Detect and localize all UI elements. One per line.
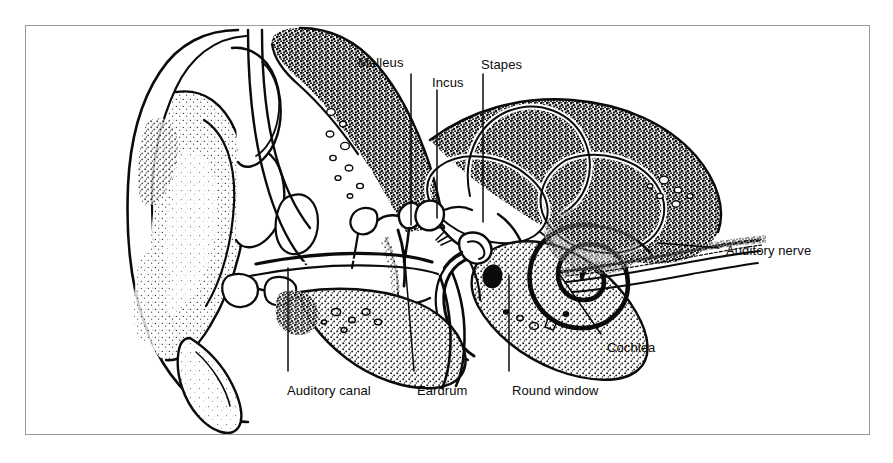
mastoid-bone-structure xyxy=(276,289,466,388)
label-auditory_nerve: Auditory nerve xyxy=(726,244,811,257)
label-stapes: Stapes xyxy=(481,58,522,71)
label-malleus: Malleus xyxy=(358,56,404,69)
label-incus: Incus xyxy=(432,76,464,89)
pinna-structure xyxy=(128,30,318,433)
eardrum-structure xyxy=(380,230,405,294)
label-auditory_canal: Auditory canal xyxy=(287,384,371,397)
diagram-stage: MalleusIncusStapesAuditory nerveCochleaA… xyxy=(0,0,893,463)
label-cochlea: Cochlea xyxy=(607,341,655,354)
label-round_window: Round window xyxy=(512,384,598,397)
label-eardrum: Eardrum xyxy=(417,384,468,397)
